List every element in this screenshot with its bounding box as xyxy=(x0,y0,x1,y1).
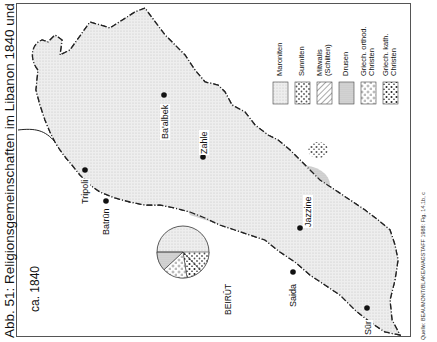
place-label-tripoli: Tripoli xyxy=(80,179,90,205)
legend-label-mitwalis: Mitwalis (Schiiten) xyxy=(316,44,332,76)
place-label-sur: Sūr xyxy=(363,320,373,336)
legend-swatches xyxy=(273,82,398,104)
legend-label-drusen: Drusen xyxy=(342,52,350,76)
place-label-saida: Saida xyxy=(288,283,298,308)
legend-label-griech-kath: Griech. kath. Christen xyxy=(382,33,398,76)
place-label-beirut: BEIRŪT xyxy=(223,283,233,316)
place-label-zahle: Zahle xyxy=(199,130,209,155)
period-label: ca. 1840 xyxy=(28,266,42,312)
beirut-pie-chart xyxy=(157,226,209,278)
source-credit: Quelle: BEAUMONT/BLAKE/WAGSTAFF 1988: Fi… xyxy=(420,192,426,340)
legend-label-sunniten: Sunniten xyxy=(298,46,306,76)
legend-label-griech-orthod: Griech. orthod. Christen xyxy=(360,26,376,76)
legend-label-maroniten: Maroniten xyxy=(276,43,284,76)
place-label-batrun: Batrūn xyxy=(101,207,111,236)
place-label-baalbek: Ba'albek xyxy=(160,104,170,140)
place-label-jazzine: Jazzine xyxy=(303,195,313,228)
